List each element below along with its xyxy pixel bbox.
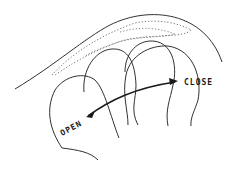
jaw-motion-diagram: CLOSE OPEN <box>0 0 239 170</box>
motion-arrow <box>88 82 175 116</box>
open-label: OPEN <box>59 119 84 138</box>
diagram-canvas: CLOSE OPEN <box>0 0 239 170</box>
close-label: CLOSE <box>184 78 213 87</box>
dotted-region <box>52 21 191 75</box>
arrowhead-open-icon <box>86 111 95 118</box>
dotted-inner <box>85 28 175 56</box>
condyle-position-1 <box>50 76 119 160</box>
